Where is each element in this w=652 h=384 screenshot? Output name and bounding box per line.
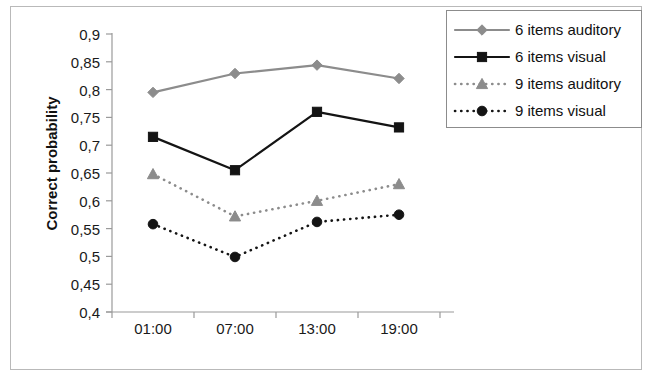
x-axis-tick-label: 01:00	[134, 320, 172, 337]
legend-key-icon	[453, 102, 511, 120]
legend-item[interactable]: 6 items auditory	[447, 16, 641, 43]
legend-key-swatch	[453, 102, 511, 120]
legend-item-label: 6 items visual	[515, 48, 606, 65]
legend-item-label: 9 items auditory	[515, 75, 621, 92]
legend-item[interactable]: 9 items auditory	[447, 70, 641, 97]
legend-key-icon	[453, 48, 511, 66]
legend-key-icon	[453, 75, 511, 93]
legend-marker	[477, 52, 486, 61]
legend-item-label: 6 items auditory	[515, 21, 621, 38]
legend-marker	[477, 106, 487, 116]
x-axis-tick-label: 07:00	[216, 320, 254, 337]
legend-key-swatch	[453, 21, 511, 39]
chart-figure: Correct probability 0,90,850,80,750,70,6…	[0, 0, 652, 384]
legend-marker	[477, 24, 487, 34]
legend-key-icon	[453, 21, 511, 39]
legend-item-label: 9 items visual	[515, 102, 606, 119]
legend-item[interactable]: 6 items visual	[447, 43, 641, 70]
x-axis-tick-label: 19:00	[380, 320, 418, 337]
legend-key-swatch	[453, 48, 511, 66]
x-axis-tick-label: 13:00	[298, 320, 336, 337]
legend-item[interactable]: 9 items visual	[447, 97, 641, 124]
chart-legend: 6 items auditory6 items visual9 items au…	[446, 10, 642, 128]
legend-key-swatch	[453, 75, 511, 93]
plot-area: Correct probability 0,90,850,80,750,70,6…	[0, 0, 652, 384]
